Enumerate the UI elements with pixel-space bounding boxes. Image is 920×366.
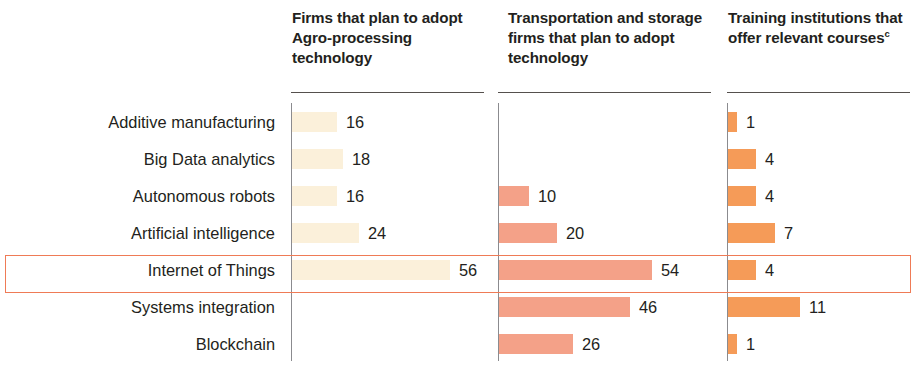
column-header-training-text: Training institutions that offer relevan… [728,9,903,46]
cell-training-institutions: 4 [728,141,918,178]
cell-training-institutions: 1 [728,326,918,363]
header-rule-col1 [291,92,484,93]
cell-training-institutions: 1 [728,104,918,141]
value-label-firms-agro: 18 [352,148,370,170]
value-label-training-institutions: 4 [765,148,774,170]
cell-firms-agro: 18 [292,141,497,178]
bar-firms-agro [292,223,359,243]
chart-row: Big Data analytics184 [0,141,920,178]
cell-firms-agro: 56 [292,252,497,289]
value-label-transport-storage: 26 [582,333,600,355]
row-label: Blockchain [0,333,275,355]
bar-training-institutions [728,149,756,169]
cell-training-institutions: 11 [728,289,918,326]
bar-transport-storage [499,260,652,280]
value-label-firms-agro: 16 [346,185,364,207]
value-label-firms-agro: 56 [459,259,477,281]
cell-transport-storage: 26 [499,326,726,363]
value-label-training-institutions: 7 [784,222,793,244]
chart-figure: Firms that plan to adopt Agro-processing… [0,0,920,366]
chart-row: Artificial intelligence24207 [0,215,920,252]
cell-transport-storage: 46 [499,289,726,326]
column-header-training-institutions: Training institutions that offer relevan… [728,8,918,48]
cell-firms-agro: 16 [292,104,497,141]
cell-transport-storage [499,141,726,178]
chart-row: Systems integration4611 [0,289,920,326]
value-label-transport-storage: 54 [661,259,679,281]
bar-training-institutions [728,112,737,132]
column-headers: Firms that plan to adopt Agro-processing… [0,0,920,100]
header-rule-col3 [727,92,910,93]
footnote-marker-c: c [885,28,890,39]
value-label-training-institutions: 4 [765,259,774,281]
value-label-training-institutions: 11 [809,296,826,318]
bar-training-institutions [728,260,756,280]
row-label: Artificial intelligence [0,222,275,244]
row-label: Internet of Things [0,259,275,281]
value-label-training-institutions: 1 [746,333,755,355]
cell-training-institutions: 4 [728,252,918,289]
cell-firms-agro [292,326,497,363]
cell-training-institutions: 4 [728,178,918,215]
chart-row: Internet of Things56544 [0,252,920,289]
row-label: Autonomous robots [0,185,275,207]
value-label-transport-storage: 46 [639,296,657,318]
chart-rows: Additive manufacturing161Big Data analyt… [0,104,920,363]
value-label-transport-storage: 10 [538,185,556,207]
bar-transport-storage [499,334,573,354]
cell-transport-storage: 54 [499,252,726,289]
cell-firms-agro [292,289,497,326]
row-label: Systems integration [0,296,275,318]
value-label-firms-agro: 16 [346,111,364,133]
header-rule-col2 [498,92,711,93]
chart-row: Blockchain261 [0,326,920,363]
cell-firms-agro: 16 [292,178,497,215]
bar-firms-agro [292,260,450,280]
row-label: Additive manufacturing [0,111,275,133]
value-label-firms-agro: 24 [368,222,386,244]
value-label-training-institutions: 4 [765,185,774,207]
cell-firms-agro: 24 [292,215,497,252]
bar-training-institutions [728,186,756,206]
value-label-training-institutions: 1 [746,111,755,133]
bar-firms-agro [292,112,337,132]
bar-firms-agro [292,186,337,206]
bar-training-institutions [728,223,775,243]
bar-transport-storage [499,297,630,317]
column-header-transport-storage: Transportation and storage firms that pl… [508,8,708,68]
cell-transport-storage: 10 [499,178,726,215]
bar-training-institutions [728,297,800,317]
bar-firms-agro [292,149,343,169]
value-label-transport-storage: 20 [566,222,584,244]
chart-row: Autonomous robots16104 [0,178,920,215]
column-header-firms-agro: Firms that plan to adopt Agro-processing… [292,8,482,68]
bar-training-institutions [728,334,737,354]
cell-training-institutions: 7 [728,215,918,252]
bar-transport-storage [499,186,529,206]
cell-transport-storage [499,104,726,141]
row-label: Big Data analytics [0,148,275,170]
bar-transport-storage [499,223,557,243]
chart-row: Additive manufacturing161 [0,104,920,141]
cell-transport-storage: 20 [499,215,726,252]
